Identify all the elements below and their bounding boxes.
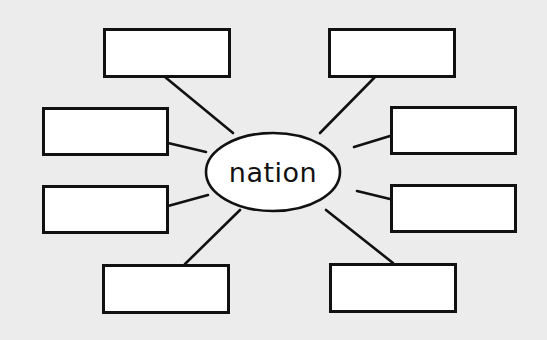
answer-box-mid-right-lower[interactable] — [390, 184, 517, 233]
connector-top-right — [320, 77, 375, 133]
connector-bottom-right — [326, 210, 393, 263]
answer-box-bottom-right[interactable] — [329, 263, 457, 313]
answer-box-mid-left-lower[interactable] — [42, 185, 169, 234]
connector-mid-left-lower — [168, 195, 208, 206]
answer-box-mid-left-upper[interactable] — [42, 107, 169, 156]
connector-mid-right-upper — [354, 136, 390, 147]
connector-mid-left-upper — [168, 143, 206, 152]
answer-box-top-right[interactable] — [328, 28, 456, 78]
answer-box-bottom-left[interactable] — [102, 264, 230, 314]
answer-box-mid-right-upper[interactable] — [390, 106, 517, 155]
center-word: nation — [206, 133, 340, 211]
connector-mid-right-lower — [357, 191, 390, 199]
answer-box-top-left[interactable] — [103, 28, 231, 78]
connector-bottom-left — [185, 210, 240, 264]
connector-top-left — [165, 77, 233, 133]
